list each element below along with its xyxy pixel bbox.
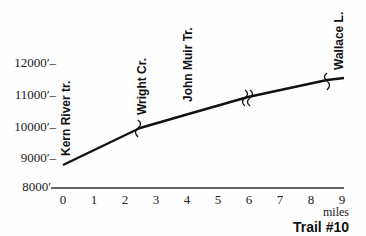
x-tick-1: 1: [91, 192, 98, 207]
x-tick-4: 4: [184, 192, 191, 207]
chart-canvas: 12000′– 11000′– 10000′– 9000′– 8000′ 0 1…: [0, 0, 366, 236]
annotation-wallace-l: Wallace L.: [332, 12, 346, 70]
x-axis-unit: miles: [323, 205, 349, 219]
y-tick-10000: 10000′–: [14, 119, 56, 134]
x-tick-7: 7: [277, 192, 284, 207]
annotation-kern-river: Kern River tr.: [59, 81, 73, 156]
x-tick-0: 0: [60, 192, 67, 207]
x-tick-8: 8: [308, 192, 315, 207]
y-tick-8000: 8000′: [22, 179, 51, 194]
y-tick-9000: 9000′–: [21, 150, 57, 165]
x-tick-5: 5: [215, 192, 222, 207]
elevation-line: [63, 78, 344, 165]
x-tick-6: 6: [246, 192, 253, 207]
annotation-wright-cr: Wright Cr.: [135, 58, 149, 115]
y-tick-12000: 12000′–: [14, 55, 56, 70]
y-tick-11000: 11000′–: [15, 87, 57, 102]
x-tick-2: 2: [122, 192, 129, 207]
chart-title: Trail #10: [293, 219, 349, 235]
annotation-john-muir-tr: John Muir Tr.: [181, 27, 195, 102]
trail-elevation-chart: 12000′– 11000′– 10000′– 9000′– 8000′ 0 1…: [0, 0, 366, 236]
x-tick-3: 3: [153, 192, 160, 207]
